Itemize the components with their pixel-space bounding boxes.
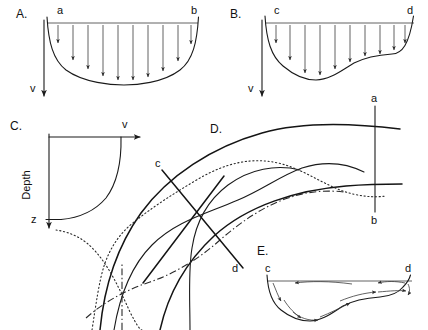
panel-e-label: E.	[257, 244, 268, 258]
panel-a-group	[44, 17, 199, 96]
panel-b-bed-curve	[265, 16, 414, 80]
panel-e-circ-arrow	[295, 282, 352, 284]
panel-d-section-label-b: b	[371, 214, 377, 226]
panel-e-circ-arrow	[378, 282, 405, 284]
panel-d-group	[56, 106, 402, 330]
panel-e-circ-arrow	[284, 300, 301, 318]
panel-e-circ-arrow	[320, 303, 350, 317]
panel-d-leader-label-c: c	[155, 157, 161, 169]
panel-d-inner-bank	[160, 184, 402, 330]
panel-b-right-label: d	[407, 4, 413, 16]
panel-a-label: A.	[16, 7, 27, 21]
panel-a-left-label: a	[57, 4, 64, 16]
panel-e-right-label: d	[405, 262, 411, 274]
panel-a-right-label: b	[191, 4, 197, 16]
panel-c-group	[46, 134, 140, 228]
panel-e-group	[267, 275, 412, 321]
panel-b-group	[262, 16, 414, 96]
panel-d-label: D.	[210, 122, 222, 136]
panel-d-outer-bank	[100, 125, 400, 330]
panel-b-v-label: v	[248, 82, 254, 94]
figure-root: A. a b v B. c d v C. v Depth z D. c d a …	[0, 0, 428, 330]
panel-d-flow-trace-dashdot	[86, 191, 344, 318]
panel-e-circ-arrow	[273, 283, 281, 301]
panel-e-circ-arrow	[378, 291, 406, 292]
panel-c-label: C.	[10, 119, 22, 133]
figure-svg: A. a b v B. c d v C. v Depth z D. c d a …	[0, 0, 428, 330]
panel-d-leader-c	[162, 170, 243, 268]
panel-a-v-label: v	[30, 82, 36, 94]
panel-c-v-label: v	[122, 118, 128, 130]
panel-d-flow-trace-dotted-2	[56, 230, 142, 330]
panel-b-left-label: c	[274, 4, 280, 16]
panel-e-left-label: c	[265, 262, 271, 274]
panel-c-z-label: z	[31, 213, 37, 225]
panel-b-label: B.	[230, 7, 241, 21]
panel-c-profile-curve	[61, 137, 121, 220]
panel-d-section-label-a: a	[371, 92, 378, 104]
panel-d-flow-trace-solid-2	[190, 168, 301, 330]
panel-e-circ-arrow	[340, 292, 376, 301]
panel-e-circ-arrow	[408, 284, 410, 295]
panel-d-leader-label-d: d	[232, 262, 238, 274]
panel-e-bed-curve	[267, 275, 411, 321]
panel-a-bed-curve	[47, 17, 199, 85]
panel-c-depth-label: Depth	[20, 170, 32, 199]
